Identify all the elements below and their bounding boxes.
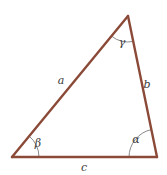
side-label-b: b [143, 78, 150, 91]
side-label-a: a [58, 74, 65, 87]
angle-label-alpha: α [132, 133, 140, 146]
triangle-figure: a b c γ β α [0, 0, 167, 175]
angle-label-beta: β [34, 137, 41, 150]
side-label-c: c [81, 161, 87, 174]
triangle-diagram: a b c γ β α [0, 0, 167, 175]
angle-label-gamma: γ [119, 36, 126, 49]
triangle-side-a [12, 16, 128, 157]
